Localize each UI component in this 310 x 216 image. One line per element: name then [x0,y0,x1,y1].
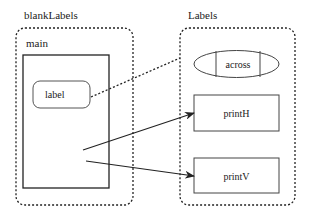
main-box [23,55,109,188]
across-text: across [226,59,251,70]
blanklabels-title: blankLabels [24,9,78,21]
printv-text: printV [223,171,250,182]
diagram-canvas: blankLabels main label Labels across pri… [0,0,310,216]
label-to-labels-dashed-link [91,58,180,97]
labels-title: Labels [188,9,217,21]
label-text: label [45,89,65,100]
main-to-printh-arrow [83,113,194,150]
main-title: main [26,37,48,49]
printh-text: printH [223,108,249,119]
main-to-printv-arrow [86,161,194,176]
